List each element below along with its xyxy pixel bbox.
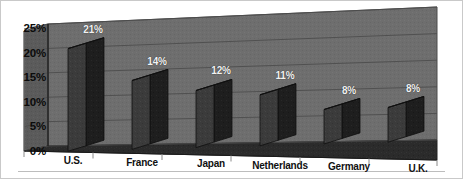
bar-japan [196,79,232,147]
value-label-france: 14% [137,57,177,67]
x-label-germany: Germany [314,161,384,172]
value-label-germany: 8% [329,86,369,96]
x-label-france: France [107,157,177,168]
bar-us [68,38,104,152]
x-label-us: U.S. [38,155,108,166]
x-label-japan: Japan [176,158,246,169]
value-label-uk: 8% [393,84,433,94]
y-tick-25: 25% [2,23,46,34]
y-tick-15: 15% [2,72,46,83]
bar-netherlands [260,84,296,146]
x-label-uk: U.K. [383,163,453,174]
bar-france [132,69,168,149]
value-label-us: 21% [73,25,113,35]
y-tick-10: 10% [2,97,46,108]
y-tick-20: 20% [2,48,46,59]
y-tick-5: 5% [2,121,46,132]
x-label-netherlands: Netherlands [245,160,315,171]
x-axis-labels: U.S. France Japan Netherlands Germany U.… [0,152,463,168]
value-label-netherlands: 11% [265,71,305,81]
value-label-japan: 12% [201,66,241,76]
chart-container: 25% 20% 15% 10% 5% 0% 21% 14% 12% 11% 8%… [0,0,463,179]
